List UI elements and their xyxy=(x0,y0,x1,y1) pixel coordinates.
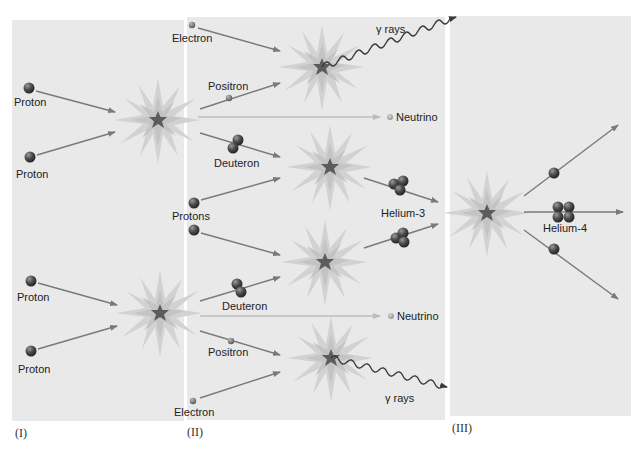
proton-label: Proton xyxy=(16,168,48,180)
proton-icon xyxy=(26,346,37,357)
proton-icon xyxy=(549,244,560,255)
stage-1-label: (I) xyxy=(15,426,27,440)
electron-icon xyxy=(190,398,196,404)
proton-proton-chain-diagram: Proton Proton Proton Proton Electron Pos… xyxy=(0,0,643,452)
proton-icon xyxy=(549,168,560,179)
proton-icon xyxy=(26,276,37,287)
proton-label: Proton xyxy=(14,96,46,108)
gamma-rays-label: γ rays xyxy=(376,23,406,35)
positron-icon xyxy=(226,95,232,101)
proton-icon xyxy=(24,83,35,94)
deuteron-label: Deuteron xyxy=(222,300,267,312)
stage-2-label: (II) xyxy=(187,425,203,439)
deuteron-label: Deuteron xyxy=(214,157,259,169)
stage-3-label: (III) xyxy=(452,421,472,435)
protons-label: Protons xyxy=(172,210,210,222)
positron-label: Positron xyxy=(208,346,248,358)
neutrino-label: Neutrino xyxy=(396,111,438,123)
helium-4-label: Helium-4 xyxy=(543,222,587,234)
neutrino-icon xyxy=(387,114,393,120)
electron-label: Electron xyxy=(174,406,214,418)
proton-icon xyxy=(25,152,36,163)
electron-icon xyxy=(189,22,195,28)
neutrino-icon xyxy=(388,313,394,319)
positron-icon xyxy=(228,338,234,344)
gamma-rays-label: γ rays xyxy=(385,392,415,404)
proton-icon xyxy=(189,198,200,209)
proton-icon xyxy=(189,225,200,236)
positron-label: Positron xyxy=(208,80,248,92)
electron-label: Electron xyxy=(172,32,212,44)
helium-3-label: Helium-3 xyxy=(381,207,425,219)
neutrino-label: Neutrino xyxy=(397,310,439,322)
proton-label: Proton xyxy=(18,363,50,375)
proton-label: Proton xyxy=(17,291,49,303)
